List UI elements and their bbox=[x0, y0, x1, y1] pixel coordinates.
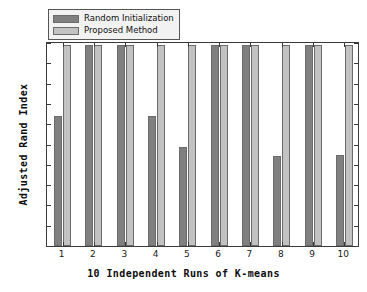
bar-group bbox=[117, 43, 134, 246]
x-tick-mark bbox=[219, 242, 220, 246]
y-tick-mark bbox=[47, 226, 51, 227]
bar bbox=[148, 116, 156, 246]
y-tick-mark bbox=[354, 246, 358, 247]
bar-group bbox=[242, 43, 259, 246]
bar-group bbox=[305, 43, 322, 246]
x-tick-mark bbox=[344, 242, 345, 246]
x-tick-mark bbox=[282, 242, 283, 246]
x-tick-mark bbox=[313, 242, 314, 246]
x-tick-label: 4 bbox=[141, 250, 171, 259]
bars-layer bbox=[47, 43, 358, 246]
y-tick-mark bbox=[354, 165, 358, 166]
bar-group bbox=[148, 43, 165, 246]
x-tick-mark bbox=[63, 43, 64, 47]
x-tick-label: 6 bbox=[203, 250, 233, 259]
x-tick-mark bbox=[282, 43, 283, 47]
x-tick-mark bbox=[188, 242, 189, 246]
x-tick-label: 7 bbox=[234, 250, 264, 259]
legend-label: Proposed Method bbox=[84, 26, 158, 35]
y-axis-title: Adjusted Rand Index bbox=[18, 42, 29, 247]
chart-legend: Random InitializationProposed Method bbox=[48, 9, 180, 40]
bar bbox=[282, 45, 290, 246]
y-tick-mark bbox=[47, 145, 51, 146]
x-tick-mark bbox=[94, 242, 95, 246]
bar bbox=[220, 45, 228, 246]
y-tick-mark bbox=[354, 43, 358, 44]
x-tick-mark bbox=[250, 43, 251, 47]
bar bbox=[251, 45, 259, 246]
bar bbox=[126, 45, 134, 246]
bar-group bbox=[85, 43, 102, 246]
bar bbox=[54, 116, 62, 246]
y-tick-mark bbox=[47, 63, 51, 64]
y-tick-mark bbox=[354, 124, 358, 125]
bar bbox=[188, 45, 196, 246]
x-tick-mark bbox=[125, 43, 126, 47]
bar bbox=[179, 147, 187, 246]
x-tick-label: 8 bbox=[266, 250, 296, 259]
y-tick-mark bbox=[47, 205, 51, 206]
bar bbox=[273, 156, 281, 246]
x-tick-label: 10 bbox=[328, 250, 358, 259]
x-tick-mark bbox=[188, 43, 189, 47]
bar-group bbox=[179, 43, 196, 246]
x-tick-mark bbox=[157, 43, 158, 47]
x-tick-label: 1 bbox=[47, 250, 77, 259]
x-tick-mark bbox=[219, 43, 220, 47]
y-tick-mark bbox=[47, 165, 51, 166]
y-tick-mark bbox=[47, 43, 51, 44]
bar bbox=[63, 45, 71, 246]
y-tick-mark bbox=[47, 124, 51, 125]
y-tick-mark bbox=[47, 185, 51, 186]
x-tick-label: 3 bbox=[109, 250, 139, 259]
plot-area bbox=[46, 42, 359, 247]
y-tick-mark bbox=[354, 104, 358, 105]
y-tick-mark bbox=[47, 104, 51, 105]
y-tick-mark bbox=[354, 226, 358, 227]
x-tick-mark bbox=[125, 242, 126, 246]
bar bbox=[305, 45, 313, 246]
legend-item: Proposed Method bbox=[53, 25, 174, 36]
bar-group bbox=[211, 43, 228, 246]
x-tick-label: 9 bbox=[297, 250, 327, 259]
x-tick-mark bbox=[344, 43, 345, 47]
x-axis-title: 10 Independent Runs of K-means bbox=[0, 268, 367, 279]
y-tick-mark bbox=[47, 84, 51, 85]
x-tick-mark bbox=[250, 242, 251, 246]
x-tick-mark bbox=[94, 43, 95, 47]
bar bbox=[211, 45, 219, 246]
y-tick-mark bbox=[354, 145, 358, 146]
x-tick-label: 5 bbox=[172, 250, 202, 259]
y-tick-mark bbox=[354, 63, 358, 64]
legend-item: Random Initialization bbox=[53, 13, 174, 24]
y-tick-mark bbox=[354, 185, 358, 186]
bar bbox=[345, 45, 353, 246]
y-tick-mark bbox=[354, 84, 358, 85]
bar bbox=[94, 45, 102, 246]
legend-swatch-icon bbox=[53, 27, 79, 35]
bar bbox=[157, 45, 165, 246]
bar bbox=[85, 45, 93, 246]
bar-group bbox=[273, 43, 290, 246]
y-tick-mark bbox=[47, 246, 51, 247]
bar bbox=[336, 155, 344, 246]
legend-swatch-icon bbox=[53, 15, 79, 23]
bar bbox=[242, 45, 250, 246]
x-tick-mark bbox=[313, 43, 314, 47]
legend-label: Random Initialization bbox=[84, 14, 174, 23]
bar-chart-figure: Adjusted Rand Index 00.10.20.30.40.50.60… bbox=[0, 0, 367, 292]
x-tick-mark bbox=[63, 242, 64, 246]
bar-group bbox=[54, 43, 71, 246]
bar-group bbox=[336, 43, 353, 246]
bar bbox=[314, 45, 322, 246]
x-tick-mark bbox=[157, 242, 158, 246]
bar bbox=[117, 45, 125, 246]
y-tick-mark bbox=[354, 205, 358, 206]
x-tick-label: 2 bbox=[78, 250, 108, 259]
